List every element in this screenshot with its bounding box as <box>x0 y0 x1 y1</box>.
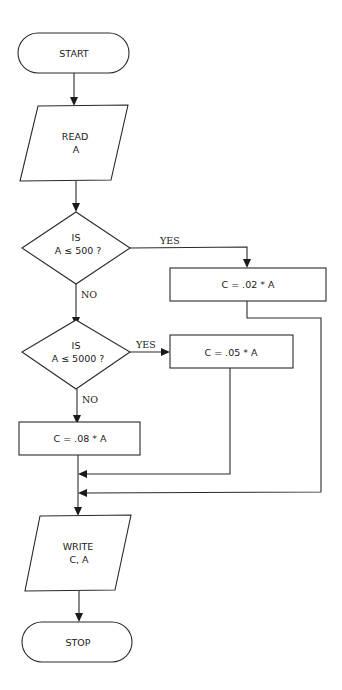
calc-c-002-node: C = .02 * A <box>170 268 326 301</box>
read-label-line2: A <box>73 144 80 155</box>
arrow-head-icon <box>78 489 87 497</box>
edge-calc1-merge <box>84 301 321 493</box>
read-input-node: READ A <box>20 105 128 181</box>
arrow-head-icon <box>161 348 170 356</box>
write-label-line2: C, A <box>69 554 89 565</box>
arrow-head-icon <box>72 203 80 212</box>
stop-terminal: STOP <box>22 622 132 662</box>
decision1-line2: A ≤ 500 ? <box>55 245 102 256</box>
decision1-line1: IS <box>72 232 81 243</box>
start-terminal: START <box>18 33 129 73</box>
calc3-label: C = .08 * A <box>53 433 107 444</box>
arrow-head-icon <box>74 507 82 516</box>
decision-a-le-5000: IS A ≤ 5000 ? <box>22 320 130 389</box>
arrow-head-icon <box>78 470 87 478</box>
decision2-yes-label: YES <box>135 339 156 350</box>
arrow-head-icon <box>75 613 83 622</box>
arrow-head-icon <box>243 259 251 268</box>
decision2-line1: IS <box>72 340 81 351</box>
flowchart-canvas: START READ A IS A ≤ 500 ? YES C = .02 * … <box>0 0 342 690</box>
edge-calc2-merge <box>84 368 230 474</box>
edge-decision1-yes <box>130 247 247 262</box>
decision1-no-label: NO <box>81 289 97 300</box>
decision-a-le-500: IS A ≤ 500 ? <box>22 212 130 284</box>
calc-c-008-node: C = .08 * A <box>19 422 140 455</box>
arrow-head-icon <box>70 97 78 106</box>
calc1-label: C = .02 * A <box>221 279 275 290</box>
stop-label: STOP <box>65 637 90 648</box>
read-label-line1: READ <box>62 131 88 142</box>
start-label: START <box>59 48 89 59</box>
write-output-node: WRITE C, A <box>25 515 131 591</box>
decision1-yes-label: YES <box>159 235 180 246</box>
write-label-line1: WRITE <box>63 541 94 552</box>
calc2-label: C = .05 * A <box>204 347 258 358</box>
calc-c-005-node: C = .05 * A <box>170 335 293 368</box>
decision2-line2: A ≤ 5000 ? <box>52 353 105 364</box>
decision2-no-label: NO <box>82 394 98 405</box>
